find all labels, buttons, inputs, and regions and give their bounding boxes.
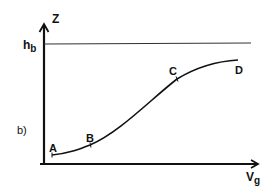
point-d-label: D — [235, 64, 243, 76]
point-c-label: C — [169, 65, 177, 77]
y-axis — [40, 24, 49, 165]
y-axis-label: Z — [52, 12, 59, 26]
point-a-label: A — [49, 142, 57, 154]
x-axis — [40, 160, 258, 168]
velocity-profile-curve — [52, 60, 238, 155]
hb-reference-line — [44, 43, 251, 44]
point-b-label: B — [86, 132, 94, 144]
diagram-canvas: Z hb b) A B C D Vg — [0, 0, 272, 195]
panel-label: b) — [17, 124, 27, 136]
x-axis-label: Vg — [246, 170, 260, 186]
hb-label: hb — [23, 38, 36, 54]
